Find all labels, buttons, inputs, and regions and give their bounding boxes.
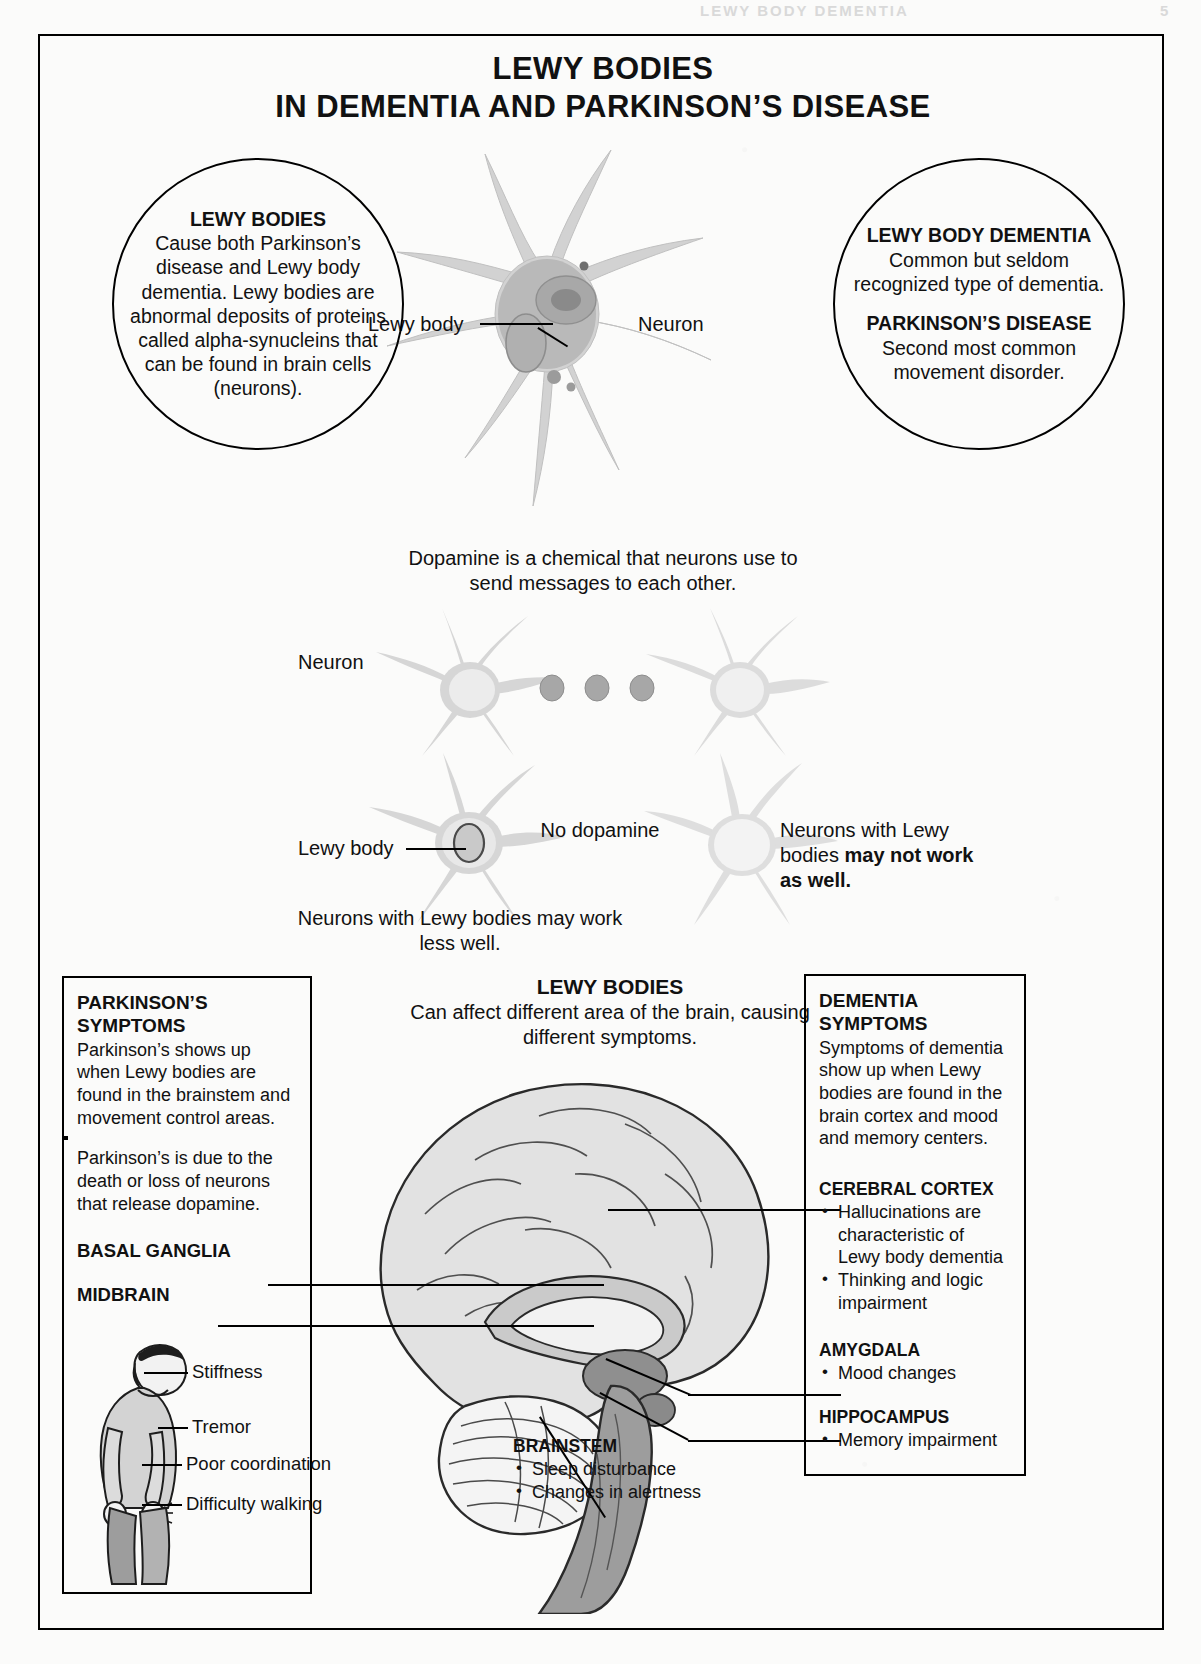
list-item: Thinking and logic impairment xyxy=(838,1269,1011,1314)
list-item: Memory impairment xyxy=(838,1429,1011,1452)
impaired-neuron-note: Neurons with Lewy bodies may not work as… xyxy=(780,818,990,894)
hippocampus-label: HIPPOCAMPUS xyxy=(819,1407,1011,1428)
amygdala-symptom-list: Mood changes xyxy=(819,1362,1011,1385)
list-item: Hallucinations are characteristic of Lew… xyxy=(838,1201,1011,1269)
symptom-label-poor-coordination: Poor coordination xyxy=(186,1453,331,1475)
dopamine-lewy-body-label: Lewy body xyxy=(298,836,394,861)
symptom-label-difficulty-walking: Difficulty walking xyxy=(186,1493,322,1515)
poor-coordination-leader-line xyxy=(142,1464,182,1466)
list-item: Mood changes xyxy=(838,1362,1011,1385)
lewy-bodies-circle-body: Cause both Parkinson’s disease and Lewy … xyxy=(130,231,386,400)
parkinsons-symptoms-paragraph-2: Parkinson’s is due to the death or loss … xyxy=(77,1147,297,1215)
page-title-line-1: LEWY BODIES xyxy=(40,50,1166,88)
parkinsons-symptoms-heading-line-1: PARKINSON’S xyxy=(77,992,297,1015)
brainstem-symptom-list: Sleep disturbance Changes in alertness xyxy=(513,1458,743,1503)
tremor-leader-line xyxy=(158,1427,188,1429)
brain-illustration xyxy=(325,1054,795,1614)
dementia-symptoms-paragraph: Symptoms of dementia show up when Lewy b… xyxy=(819,1037,1011,1150)
cerebral-cortex-label: CEREBRAL CORTEX xyxy=(819,1179,1011,1200)
healthy-neuron-illustration xyxy=(370,606,560,756)
list-item: Changes in alertness xyxy=(532,1481,743,1504)
brain-section-heading: LEWY BODIES xyxy=(430,974,790,1000)
dementia-parkinsons-info-circle: LEWY BODY DEMENTIA Common but seldom rec… xyxy=(833,158,1125,450)
brain-section-caption: Can affect different area of the brain, … xyxy=(390,1000,830,1050)
dementia-symptoms-heading-line-2: SYMPTOMS xyxy=(819,1013,1011,1036)
dopamine-lewy-body-leader-line xyxy=(406,848,466,850)
dementia-symptoms-heading-line-1: DEMENTIA xyxy=(819,990,1011,1013)
brainstem-callout: BRAINSTEM Sleep disturbance Changes in a… xyxy=(513,1436,743,1503)
lewy-bodies-info-circle: LEWY BODIES Cause both Parkinson’s disea… xyxy=(112,158,404,450)
parkinsons-symptoms-heading-line-2: SYMPTOMS xyxy=(77,1015,297,1038)
basal-ganglia-label: BASAL GANGLIA xyxy=(77,1240,297,1262)
region-amygdala: AMYGDALA Mood changes xyxy=(819,1340,1011,1385)
dementia-symptoms-panel: DEMENTIA SYMPTOMS Symptoms of dementia s… xyxy=(804,974,1026,1476)
lewy-bodies-circle-heading: LEWY BODIES xyxy=(130,208,386,232)
dopamine-bottom-caption: Neurons with Lewy bodies may work less w… xyxy=(290,906,630,956)
dopamine-neuron-label: Neuron xyxy=(298,650,364,675)
difficulty-walking-leader-line xyxy=(142,1504,182,1506)
cerebral-cortex-symptom-list: Hallucinations are characteristic of Lew… xyxy=(819,1201,1011,1314)
list-item: Sleep disturbance xyxy=(532,1458,743,1481)
dopamine-caption: Dopamine is a chemical that neurons use … xyxy=(388,546,818,596)
symptom-label-tremor: Tremor xyxy=(192,1416,251,1438)
running-head-title: LEWY BODY DEMENTIA xyxy=(700,2,909,19)
region-hippocampus: HIPPOCAMPUS Memory impairment xyxy=(819,1407,1011,1452)
midbrain-label: MIDBRAIN xyxy=(77,1284,297,1306)
parkinsons-disease-body: Second most common movement disorder. xyxy=(851,336,1107,384)
hippocampus-symptom-list: Memory impairment xyxy=(819,1429,1011,1452)
brainstem-label: BRAINSTEM xyxy=(513,1436,743,1457)
parkinsons-disease-heading: PARKINSON’S DISEASE xyxy=(851,312,1107,336)
lewy-body-leader-line xyxy=(480,323,553,325)
neuron-diagram-neuron-label: Neuron xyxy=(638,312,704,337)
parkinsons-symptoms-paragraph-1: Parkinson’s shows up when Lewy bodies ar… xyxy=(77,1039,297,1130)
symptom-label-stiffness: Stiffness xyxy=(192,1361,263,1383)
lewy-body-dementia-heading: LEWY BODY DEMENTIA xyxy=(851,224,1107,248)
amygdala-label: AMYGDALA xyxy=(819,1340,1011,1361)
poster-frame: LEWY BODIES IN DEMENTIA AND PARKINSON’S … xyxy=(38,34,1164,1630)
receiving-neuron-illustration xyxy=(640,606,830,756)
running-head: LEWY BODY DEMENTIA 5 xyxy=(0,0,1201,26)
region-cerebral-cortex: CEREBRAL CORTEX Hallucinations are chara… xyxy=(819,1179,1011,1314)
running-head-page-number: 5 xyxy=(1160,2,1170,19)
lewy-body-dementia-body: Common but seldom recognized type of dem… xyxy=(851,248,1107,296)
stiffness-leader-line xyxy=(144,1372,188,1374)
basal-ganglia-leader-line xyxy=(268,1284,604,1286)
